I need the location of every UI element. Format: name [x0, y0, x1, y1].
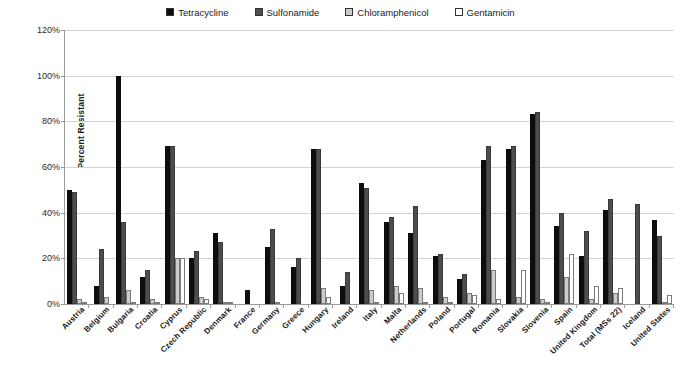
legend-label: Chloramphenicol [357, 7, 428, 18]
bar-group [162, 30, 186, 304]
bar-sulfonamide [296, 258, 301, 304]
bar-group [260, 30, 284, 304]
bar-gentamicin [326, 297, 331, 304]
bar-sulfonamide [535, 112, 540, 304]
y-tick-label: 120% [37, 25, 60, 35]
bar-gentamicin [204, 299, 209, 304]
y-tick-label: 40% [42, 208, 60, 218]
bar-group [138, 30, 162, 304]
bar-group [89, 30, 113, 304]
legend-entry: Chloramphenicol [345, 7, 428, 18]
bar-group [455, 30, 479, 304]
bar-gentamicin [618, 288, 623, 304]
bar-groups-container [65, 30, 674, 304]
legend-swatch-icon [455, 8, 463, 16]
bar-gentamicin [448, 302, 453, 304]
bar-sulfonamide [99, 249, 104, 304]
y-tick-label: 80% [42, 116, 60, 126]
bar-gentamicin [374, 302, 379, 304]
bar-group [187, 30, 211, 304]
bar-group [284, 30, 308, 304]
bar-sulfonamide [218, 242, 223, 304]
bar-chloramphenicol [104, 297, 109, 304]
bar-group [309, 30, 333, 304]
bar-group [114, 30, 138, 304]
legend-label: Sulfonamide [267, 7, 320, 18]
chart-plot-frame: Percent Resistant 0%20%40%60%80%100%120% [64, 30, 674, 305]
x-axis-label: Croatia [133, 305, 159, 331]
bar-group [236, 30, 260, 304]
bar-group [503, 30, 527, 304]
bar-gentamicin [545, 302, 550, 304]
bar-sulfonamide [511, 146, 516, 304]
legend-swatch-icon [255, 8, 263, 16]
bar-group [406, 30, 430, 304]
legend-label: Tetracycline [178, 7, 228, 18]
bar-group [333, 30, 357, 304]
bar-gentamicin [521, 270, 526, 304]
bar-group [357, 30, 381, 304]
bar-gentamicin [155, 302, 160, 304]
bar-group [528, 30, 552, 304]
legend-swatch-icon [345, 8, 353, 16]
y-tick-label: 20% [42, 253, 60, 263]
bar-sulfonamide [635, 204, 640, 304]
x-axis-label: Ireland [330, 305, 355, 330]
x-axis-label: Czech Republic [159, 305, 208, 354]
y-tick-label: 0% [47, 299, 60, 309]
bar-sulfonamide [345, 272, 350, 304]
bar-group [601, 30, 625, 304]
bar-group [382, 30, 406, 304]
bar-gentamicin [667, 295, 672, 304]
bar-sulfonamide [194, 251, 199, 304]
bar-group [650, 30, 674, 304]
bar-group [211, 30, 235, 304]
bar-sulfonamide [270, 229, 275, 304]
bar-tetracycline [245, 290, 250, 304]
legend-swatch-icon [166, 8, 174, 16]
bar-sulfonamide [72, 192, 77, 304]
y-tick-label: 60% [42, 162, 60, 172]
bar-sulfonamide [316, 149, 321, 304]
x-axis-label: Spain [552, 305, 574, 327]
bar-gentamicin [423, 302, 428, 304]
bar-gentamicin [82, 302, 87, 304]
bar-group [65, 30, 89, 304]
legend-entry: Gentamicin [455, 7, 515, 18]
legend-entry: Sulfonamide [255, 7, 320, 18]
x-axis-label: Malta [383, 305, 404, 326]
bar-gentamicin [594, 286, 599, 304]
legend-label: Gentamicin [467, 7, 515, 18]
x-axis-label: Italy [361, 305, 379, 323]
bar-sulfonamide [657, 236, 662, 305]
bar-gentamicin [496, 299, 501, 304]
x-axis-labels: AustriaBelgiumBulgariaCroatiaCyprusCzech… [64, 305, 674, 381]
bar-sulfonamide [584, 231, 589, 304]
bar-gentamicin [180, 258, 185, 304]
y-tick-label: 100% [37, 71, 60, 81]
bar-chloramphenicol [275, 302, 280, 304]
legend-entry: Tetracycline [166, 7, 228, 18]
bar-group [479, 30, 503, 304]
bar-sulfonamide [364, 188, 369, 304]
bar-gentamicin [472, 295, 477, 304]
bar-group [577, 30, 601, 304]
bar-group [430, 30, 454, 304]
bar-gentamicin [228, 302, 233, 304]
bar-group [625, 30, 649, 304]
bar-group [552, 30, 576, 304]
bar-gentamicin [569, 254, 574, 304]
bar-gentamicin [131, 302, 136, 304]
bar-sulfonamide [608, 199, 613, 304]
chart-legend: TetracyclineSulfonamideChloramphenicolGe… [0, 3, 681, 21]
bar-gentamicin [399, 293, 404, 304]
